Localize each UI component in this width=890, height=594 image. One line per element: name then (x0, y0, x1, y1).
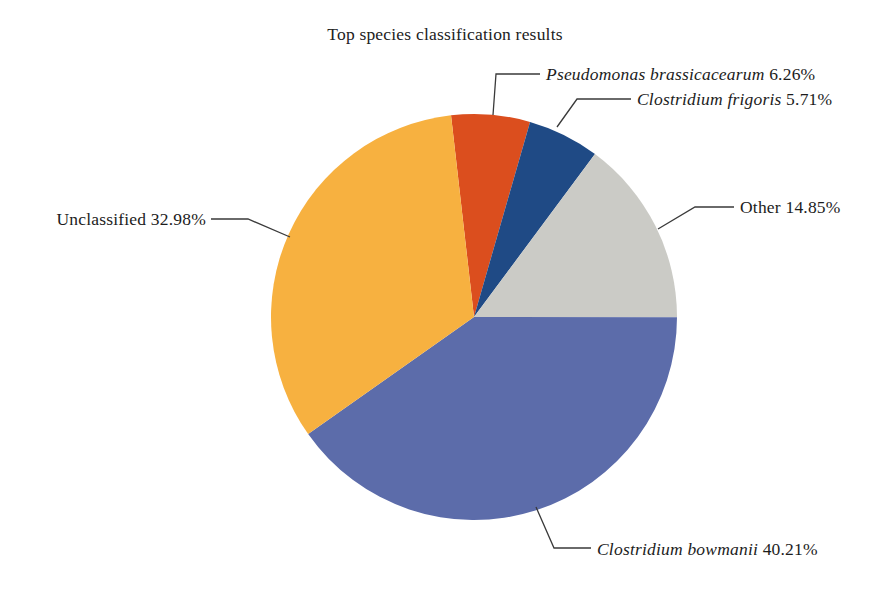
leader-line-pseudomonas-brassicacearum (493, 74, 540, 115)
slice-percentage: 14.85% (785, 197, 840, 217)
slice-name: Clostridium frigoris (637, 89, 782, 109)
leader-line-clostridium-bowmanii (536, 507, 591, 548)
slice-percentage: 5.71% (786, 89, 832, 109)
leader-line-other (658, 207, 734, 229)
leader-line-clostridium-frigoris (557, 99, 631, 127)
slice-name: Other (740, 197, 781, 217)
pie-chart-figure: Top species classification results Pseud… (0, 0, 890, 594)
leader-line-unclassified (211, 219, 290, 237)
slice-label-pseudomonas-brassicacearum: Pseudomonas brassicacearum 6.26% (546, 64, 815, 85)
slice-label-other: Other 14.85% (740, 197, 841, 218)
slice-label-clostridium-bowmanii: Clostridium bowmanii 40.21% (597, 539, 818, 560)
slice-name: Pseudomonas brassicacearum (546, 64, 765, 84)
slice-label-unclassified: Unclassified 32.98% (56, 209, 206, 230)
slice-percentage: 40.21% (763, 539, 818, 559)
slice-percentage: 32.98% (151, 209, 206, 229)
slice-label-clostridium-frigoris: Clostridium frigoris 5.71% (637, 89, 832, 110)
slice-percentage: 6.26% (769, 64, 815, 84)
slice-name: Clostridium bowmanii (597, 539, 758, 559)
slice-name: Unclassified (56, 209, 146, 229)
